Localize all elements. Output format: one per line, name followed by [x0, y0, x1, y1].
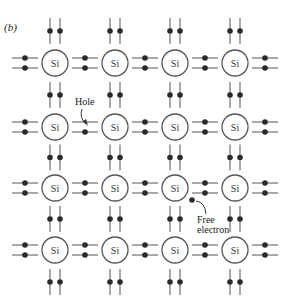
electron: [262, 65, 268, 71]
free-electron-arrow: [196, 201, 206, 214]
electron: [142, 180, 148, 186]
electron: [237, 216, 243, 222]
electron: [142, 65, 148, 71]
electron: [57, 155, 63, 161]
electron: [107, 279, 113, 285]
electron: [167, 155, 173, 161]
electron: [227, 28, 233, 34]
electron: [167, 279, 173, 285]
silicon-atom-label: Si: [171, 122, 180, 133]
electron: [202, 242, 208, 248]
electron: [177, 28, 183, 34]
electron: [262, 242, 268, 248]
electron: [22, 65, 28, 71]
free-electron: [189, 197, 195, 203]
electron: [202, 65, 208, 71]
silicon-atom-label: Si: [231, 58, 240, 69]
electron: [227, 92, 233, 98]
silicon-atom-label: Si: [111, 122, 120, 133]
hole-label: Hole: [75, 97, 94, 107]
silicon-atom-label: Si: [51, 245, 60, 256]
silicon-atom-label: Si: [231, 183, 240, 194]
electron: [177, 155, 183, 161]
electron: [57, 92, 63, 98]
electron: [177, 92, 183, 98]
silicon-atom-label: Si: [51, 122, 60, 133]
electron: [142, 129, 148, 135]
electron: [22, 55, 28, 61]
silicon-atom-label: Si: [51, 183, 60, 194]
electron: [117, 216, 123, 222]
electron: [82, 252, 88, 258]
electron: [107, 155, 113, 161]
electron: [202, 129, 208, 135]
electron: [47, 216, 53, 222]
electron: [22, 190, 28, 196]
electron: [47, 279, 53, 285]
electron: [177, 216, 183, 222]
electron: [117, 279, 123, 285]
electron: [237, 155, 243, 161]
electron: [47, 28, 53, 34]
silicon-atom-label: Si: [111, 183, 120, 194]
electron: [117, 92, 123, 98]
electron: [177, 279, 183, 285]
silicon-atom-label: Si: [51, 58, 60, 69]
electron: [82, 129, 88, 135]
electron: [117, 28, 123, 34]
electron: [167, 216, 173, 222]
electron: [107, 28, 113, 34]
silicon-crystal-lattice-diagram: SiSiSiSiSiSiSiSiSiSiSiSiSiSiSiSi: [0, 0, 289, 305]
electron: [47, 155, 53, 161]
silicon-atom-label: Si: [111, 58, 120, 69]
silicon-atom-label: Si: [231, 122, 240, 133]
electron: [202, 180, 208, 186]
electron: [47, 92, 53, 98]
silicon-atom-label: Si: [171, 245, 180, 256]
electron: [262, 252, 268, 258]
electron: [262, 119, 268, 125]
electron: [82, 65, 88, 71]
electron: [107, 216, 113, 222]
electron: [82, 55, 88, 61]
silicon-atom-label: Si: [111, 245, 120, 256]
electron: [227, 155, 233, 161]
electron: [167, 28, 173, 34]
electron: [167, 92, 173, 98]
electron: [262, 180, 268, 186]
electron: [202, 252, 208, 258]
silicon-atom-label: Si: [231, 245, 240, 256]
electron: [57, 279, 63, 285]
electron: [82, 190, 88, 196]
electron: [262, 129, 268, 135]
electron: [237, 28, 243, 34]
free-electron-label: Free electron: [197, 215, 237, 235]
electron: [22, 180, 28, 186]
electron: [57, 216, 63, 222]
electron: [142, 190, 148, 196]
electron: [142, 242, 148, 248]
electron: [202, 55, 208, 61]
electron: [142, 252, 148, 258]
electron: [262, 190, 268, 196]
free-electron-label-line2: electron: [197, 225, 237, 235]
electron: [202, 119, 208, 125]
silicon-atom-label: Si: [171, 58, 180, 69]
electron: [142, 119, 148, 125]
electron: [22, 119, 28, 125]
electron: [82, 242, 88, 248]
electron: [202, 190, 208, 196]
electron: [237, 279, 243, 285]
electron: [107, 92, 113, 98]
silicon-atom-label: Si: [171, 183, 180, 194]
electron: [82, 180, 88, 186]
electron: [22, 252, 28, 258]
electron: [22, 129, 28, 135]
electron: [22, 242, 28, 248]
electron: [262, 55, 268, 61]
electron: [142, 55, 148, 61]
electron: [227, 279, 233, 285]
electron: [237, 92, 243, 98]
electron: [57, 28, 63, 34]
electron: [117, 155, 123, 161]
